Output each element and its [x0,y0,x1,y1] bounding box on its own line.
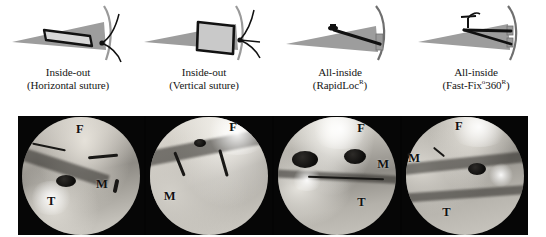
annotation-meniscus: M [377,158,389,171]
caption-variant-post: ) [506,79,510,91]
figure-container: Inside-out (Horizontal suture) Ins [0,0,546,237]
annotation-meniscus: M [408,152,420,165]
schematic-row: Inside-out (Horizontal suture) Ins [0,0,546,112]
schematic-all-inside-rapidloc: All-inside (RapidLocR) [272,0,408,112]
tissue-shadow [194,139,206,147]
schematic-diagram-vertical-suture [136,0,272,66]
caption-variant-pre: (RapidLoc [313,79,359,91]
photo-panel-1: F M T [18,116,144,235]
arthroscopic-view-3 [278,117,396,235]
caption-line-variant: (Horizontal suture) [0,79,136,92]
caption-all-inside-fastfix360: All-inside (Fast-Fixo360R) [408,66,544,92]
caption-line-variant: (Fast-Fixo360R) [408,79,544,92]
schematic-inside-out-vertical: Inside-out (Vertical suture) [136,0,272,112]
annotation-femur: F [76,123,84,136]
schematic-all-inside-fastfix360: All-inside (Fast-Fixo360R) [408,0,544,112]
tissue-shadow [468,163,486,175]
schematic-diagram-fastfix360 [408,0,544,66]
photo-panel-4: F M T [402,116,528,235]
caption-line-variant: (Vertical suture) [136,79,272,92]
caption-line-technique: Inside-out [0,66,136,79]
schematic-diagram-horizontal-suture [0,0,136,66]
specular-highlight [290,169,324,191]
implant-anchor [344,149,366,164]
implant-anchor [292,151,318,168]
caption-all-inside-rapidloc: All-inside (RapidLocR) [272,66,408,92]
caption-variant-pre: (Fast-Fix [442,79,481,91]
annotation-femur: F [229,121,237,134]
annotation-femur: F [455,120,463,133]
schematic-diagram-rapidloc [272,0,408,66]
caption-line-variant: (RapidLocR) [272,79,408,92]
annotation-meniscus: M [96,178,108,191]
caption-line-technique: All-inside [408,66,544,79]
caption-inside-out-vertical: Inside-out (Vertical suture) [136,66,272,92]
tissue-shadow [56,175,76,187]
caption-line-technique: Inside-out [136,66,272,79]
annotation-tibia: T [357,196,365,209]
caption-variant-post: ) [364,79,368,91]
annotation-femur: F [357,122,365,135]
arthroscopic-view-2 [150,117,268,235]
caption-line-technique: All-inside [272,66,408,79]
photo-panel-3: F M T [274,116,400,235]
caption-inside-out-horizontal: Inside-out (Horizontal suture) [0,66,136,92]
implant-highlight [488,163,514,187]
annotation-tibia: T [442,206,450,219]
caption-variant-mid: 360 [485,79,501,91]
schematic-inside-out-horizontal: Inside-out (Horizontal suture) [0,0,136,112]
annotation-meniscus: M [164,190,176,203]
arthroscopic-view-4 [406,117,524,235]
annotation-tibia: T [47,195,55,208]
arthroscopic-photo-strip: F M T F M [18,116,528,235]
photo-panel-2: F M [146,116,272,235]
